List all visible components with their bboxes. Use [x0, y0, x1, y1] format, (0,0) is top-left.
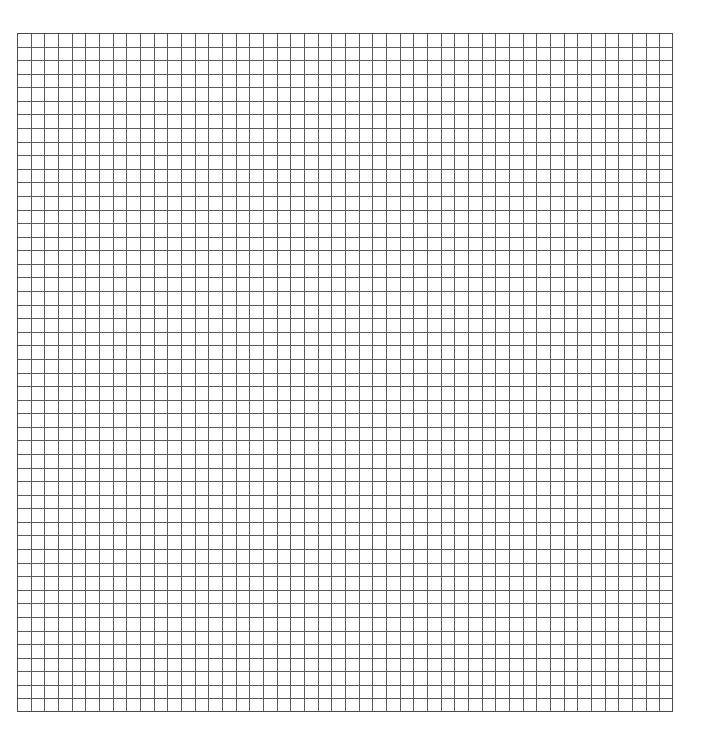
graph-paper-grid: [17, 33, 673, 712]
page-canvas: [0, 0, 709, 739]
